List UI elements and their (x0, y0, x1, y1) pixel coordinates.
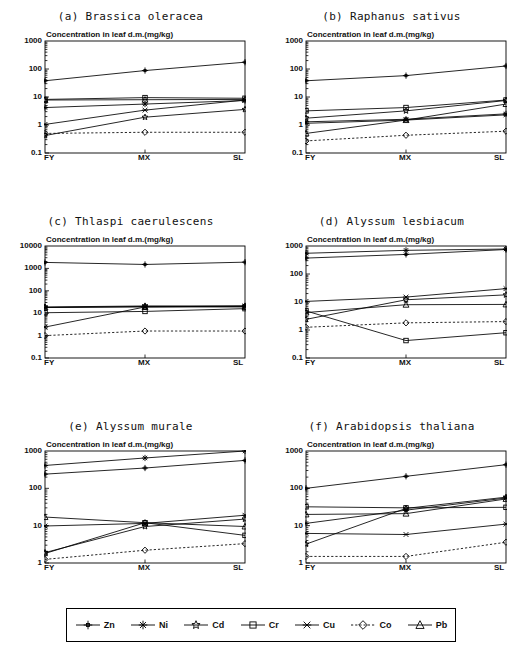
chart-panel-e: (e) Alyssum muraleConcentration in leaf … (0, 412, 261, 612)
x-axis-ticks-d: FYMXSL (305, 358, 505, 372)
x-tick-label: FY (305, 563, 315, 572)
y-axis-ticks-a: 10001001010.1 (0, 40, 42, 152)
chart-title-d: (d) Alyssum lesbiacum (261, 215, 522, 228)
y-tick-label: 10 (33, 308, 42, 317)
y-axis-caption-c: Concentration in leaf d.m.(mg/kg) (46, 235, 173, 244)
chart-title-c: (c) Thlaspi caerulescens (0, 215, 261, 228)
chart-title-a: (a) Brassica oleracea (0, 10, 261, 23)
series-line-Co (45, 331, 245, 336)
series-line-Co (306, 542, 506, 556)
y-tick-label: 100 (290, 64, 303, 73)
y-axis-caption-b: Concentration in leaf d.m.(mg/kg) (307, 30, 434, 39)
y-tick-label: 10 (33, 92, 42, 101)
data-point-Cu (142, 108, 148, 113)
legend-item-Zn[interactable]: Zn (75, 618, 115, 632)
y-tick-label: 1000 (24, 263, 42, 272)
x-tick-label: MX (138, 358, 150, 367)
legend-item-Cd[interactable]: Cd (183, 618, 224, 632)
data-point-Ni (242, 450, 246, 454)
data-point-Ni (403, 247, 409, 253)
plot-area-a (44, 40, 244, 152)
chart-panel-d: (d) Alyssum lesbiacumConcentration in le… (261, 207, 522, 407)
y-tick-label: 1 (299, 120, 303, 129)
y-axis-caption-d: Concentration in leaf d.m.(mg/kg) (307, 235, 434, 244)
y-tick-label: 0.1 (31, 353, 42, 362)
y-tick-label: 1 (299, 325, 303, 334)
data-point-Zn (503, 462, 507, 468)
data-point-Ni (305, 250, 309, 256)
y-axis-ticks-b: 10001001010.1 (261, 40, 303, 152)
x-tick-label: SL (494, 153, 504, 162)
y-tick-label: 100 (290, 483, 303, 492)
series-line-Pb (306, 304, 506, 312)
series-line-Cu (306, 524, 506, 534)
legend-label: Cr (269, 620, 279, 630)
legend-item-Cr[interactable]: Cr (240, 618, 279, 632)
y-tick-label: 0.1 (292, 353, 303, 362)
chart-panel-b: (b) Raphanus sativusConcentration in lea… (261, 2, 522, 202)
y-tick-label: 10000 (20, 241, 42, 250)
x-tick-label: MX (399, 358, 411, 367)
data-point-Zn (305, 78, 309, 84)
data-point-Zn (503, 63, 507, 69)
y-axis-ticks-d: 10001001010.1 (261, 245, 303, 357)
plot-area-b (305, 40, 505, 152)
y-tick-label: 10 (294, 297, 303, 306)
chart-legend: ZnNiCdCrCuCoPb (66, 608, 456, 642)
plot-area-d (305, 245, 505, 357)
star-marker (183, 618, 209, 632)
legend-item-Ni[interactable]: Ni (130, 618, 168, 632)
y-axis-caption-f: Concentration in leaf d.m.(mg/kg) (307, 440, 434, 449)
y-tick-label: 10 (33, 520, 42, 529)
x-tick-label: FY (44, 563, 54, 572)
figure-root: (a) Brassica oleraceaConcentration in le… (0, 0, 522, 662)
chart-panel-c: (c) Thlaspi caerulescensConcentration in… (0, 207, 261, 407)
legend-item-Co[interactable]: Co (350, 618, 391, 632)
x-tick-label: FY (305, 358, 315, 367)
plot-area-f (305, 450, 505, 562)
y-tick-label: 100 (29, 285, 42, 294)
legend-label: Co (379, 620, 391, 630)
legend-item-Pb[interactable]: Pb (407, 618, 448, 632)
plus-cross-marker (75, 618, 101, 632)
x-axis-ticks-f: FYMXSL (305, 563, 505, 577)
data-point-Zn (403, 473, 409, 479)
series-line-Pb (45, 99, 245, 100)
x-axis-ticks-a: FYMXSL (44, 153, 244, 167)
chart-title-e: (e) Alyssum murale (0, 420, 261, 433)
y-axis-ticks-f: 1000100101 (261, 450, 303, 562)
x-cross-marker (294, 618, 320, 632)
data-point-Ni (44, 462, 48, 468)
x-axis-ticks-b: FYMXSL (305, 153, 505, 167)
legend-label: Cu (323, 620, 335, 630)
y-tick-label: 10 (294, 520, 303, 529)
y-tick-label: 100 (290, 269, 303, 278)
data-point-Zn (142, 67, 148, 73)
y-axis-ticks-e: 1000100101 (0, 450, 42, 562)
diamond-marker (350, 618, 376, 632)
x-tick-label: FY (44, 358, 54, 367)
square-marker (240, 618, 266, 632)
y-tick-label: 1000 (285, 446, 303, 455)
y-tick-label: 0.1 (292, 148, 303, 157)
data-point-Ni (503, 246, 507, 252)
data-point-Cu (403, 532, 409, 537)
data-point-Zn (305, 485, 309, 491)
y-tick-label: 1 (38, 330, 42, 339)
chart-title-f: (f) Arabidopsis thaliana (261, 420, 522, 433)
y-axis-caption-e: Concentration in leaf d.m.(mg/kg) (46, 440, 173, 449)
y-tick-label: 1 (38, 120, 42, 129)
data-point-Zn (44, 259, 48, 265)
triangle-marker (407, 618, 433, 632)
y-tick-label: 1 (299, 558, 303, 567)
legend-item-Cu[interactable]: Cu (294, 618, 335, 632)
y-tick-label: 1000 (24, 446, 42, 455)
y-tick-label: 1000 (24, 36, 42, 45)
x-tick-label: FY (44, 153, 54, 162)
legend-label: Pb (436, 620, 448, 630)
data-point-Cu (403, 295, 409, 300)
data-point-Zn (142, 465, 148, 471)
x-tick-label: FY (305, 153, 315, 162)
asterisk-marker (130, 618, 156, 632)
data-point-Zn (403, 73, 409, 79)
